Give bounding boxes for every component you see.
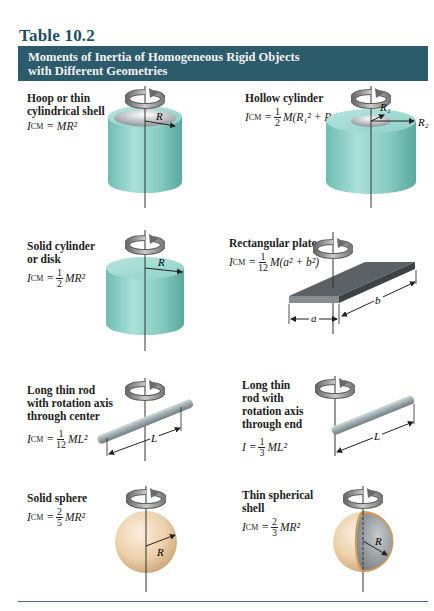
rod-end-label-3: rotation axis — [242, 405, 303, 418]
solid-sphere-cell: Solid sphere ICM = 25 MR² — [27, 492, 87, 528]
hoop-label-1: Hoop or thin — [27, 92, 105, 105]
rod-center-figure: L — [100, 376, 190, 466]
thin-shell-r-label: R — [374, 535, 382, 547]
table-header: Moments of Inertia of Homogeneous Rigid … — [18, 46, 428, 81]
rod-end-label-1: Long thin — [242, 379, 303, 392]
solid-cylinder-r-label: R — [157, 256, 165, 268]
hollow-r1-label: R₁ — [379, 101, 391, 113]
rod-end-cell: Long thin rod with rotation axis through… — [242, 379, 303, 458]
thin-spherical-shell-figure: R — [325, 484, 405, 594]
hollow-r2-label: R₂ — [417, 116, 429, 128]
plate-b-label: b — [375, 294, 381, 306]
thin-shell-label-1: Thin spherical — [242, 489, 313, 502]
rectangular-plate-figure: a b — [285, 232, 434, 342]
rod-end-l-label: L — [373, 430, 380, 442]
bottom-rule — [18, 601, 428, 602]
thin-shell-label-2: shell — [242, 502, 313, 515]
rod-end-figure: L — [310, 374, 420, 464]
hoop-r-label: R — [155, 110, 163, 122]
hoop-formula: ICM = MR² — [27, 120, 105, 133]
rod-end-formula: I = 13 ML² — [242, 437, 303, 458]
plate-a-label: a — [311, 312, 317, 324]
solid-cylinder-cell: Solid cylinder or disk ICM = 12 MR² — [27, 240, 95, 289]
hoop-figure: R — [100, 84, 210, 209]
table-number: Table 10.2 — [19, 26, 95, 46]
solid-sphere-label: Solid sphere — [27, 492, 87, 505]
hoop-cell: Hoop or thin cylindrical shell ICM = MR² — [27, 92, 105, 133]
hollow-cylinder-figure: R₁ R₂ — [318, 84, 434, 209]
solid-cylinder-formula: ICM = 12 MR² — [27, 268, 95, 289]
rod-center-l-label: L — [150, 432, 157, 444]
solid-sphere-r-label: R — [156, 546, 164, 558]
solid-sphere-formula: ICM = 25 MR² — [27, 507, 87, 528]
solid-cylinder-label-1: Solid cylinder — [27, 240, 95, 253]
hoop-label-2: cylindrical shell — [27, 105, 105, 118]
table-title-line1: Moments of Inertia of Homogeneous Rigid … — [28, 50, 428, 64]
thin-shell-formula: ICM = 23 MR² — [242, 517, 313, 538]
rod-end-label-2: rod with — [242, 392, 303, 405]
rod-end-label-4: through end — [242, 418, 303, 431]
solid-sphere-figure: R — [110, 484, 190, 594]
solid-cylinder-figure: R — [100, 228, 210, 353]
solid-cylinder-label-2: or disk — [27, 253, 95, 266]
thin-spherical-shell-cell: Thin spherical shell ICM = 23 MR² — [242, 489, 313, 538]
table-title-line2: with Different Geometries — [28, 64, 428, 78]
